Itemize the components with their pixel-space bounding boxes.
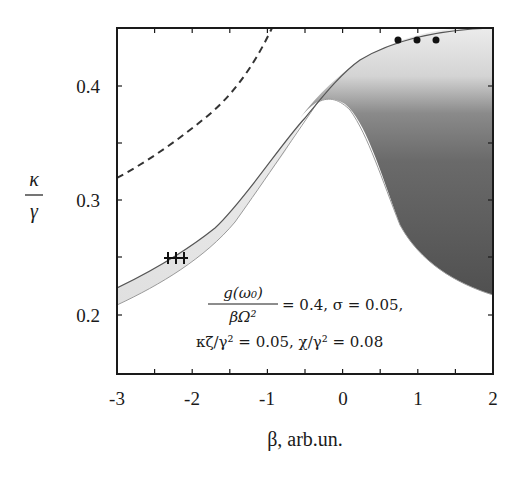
x-tick-label: 0: [338, 388, 348, 409]
annotation-line2: κζ/γ² = 0.05, χ/γ² = 0.08: [196, 333, 383, 351]
x-tick-label: -1: [259, 388, 275, 409]
annotation-line1-rest: = 0.4, σ = 0.05,: [282, 296, 403, 314]
dashed-boundary-line: [117, 28, 272, 178]
annotation-fraction-numerator: g(ω₀): [223, 284, 263, 302]
x-tick-label: -3: [109, 388, 125, 409]
plot-area: [117, 28, 493, 374]
y-tick-label: 0.3: [76, 190, 100, 211]
x-tick-label: -2: [184, 388, 200, 409]
x-tick-label: 2: [488, 388, 498, 409]
y-axis-label-numerator: κ: [29, 168, 39, 190]
annotation-fraction-denominator: βΩ²: [228, 308, 256, 326]
x-axis-label: β, arb.un.: [267, 428, 343, 451]
y-axis-label-denominator: γ: [30, 200, 39, 223]
chart: -3 -2 -1 0 1 2 0.2 0.3 0.4 κ γ β, arb.un…: [0, 0, 524, 477]
plus-markers: [164, 252, 188, 264]
x-tick-label: 1: [413, 388, 423, 409]
y-tick-label: 0.4: [76, 76, 100, 97]
y-tick-label: 0.2: [76, 305, 100, 326]
